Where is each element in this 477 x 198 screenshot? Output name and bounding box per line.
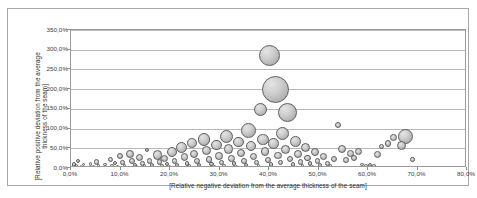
- x-axis-tick-mark: [219, 167, 220, 170]
- bubble-point: [301, 164, 304, 167]
- bubble-point: [351, 155, 357, 161]
- y-axis-tick-label: 300,0%: [46, 45, 68, 52]
- y-axis-tick-mark: [67, 128, 70, 129]
- x-axis-tick-mark: [120, 167, 121, 170]
- bubble-point: [338, 145, 346, 153]
- bubble-point: [410, 157, 414, 161]
- bubble-point: [135, 165, 138, 167]
- x-axis-tick-mark: [318, 167, 319, 170]
- bubble-point: [244, 163, 248, 167]
- bubble-point: [220, 130, 234, 144]
- y-axis-tick-label: 50,0%: [50, 144, 68, 151]
- y-axis-tick-mark: [67, 88, 70, 89]
- y-axis-tick-mark: [67, 108, 70, 109]
- bubble-point: [108, 157, 113, 162]
- bubble-point: [269, 162, 273, 166]
- bubble-point: [250, 153, 257, 160]
- bubble-point: [92, 165, 95, 167]
- x-axis-tick-label: 70,0%: [407, 170, 425, 177]
- x-axis-tick-mark: [70, 167, 71, 170]
- chart-outer-frame: [Relative positive deviation from the av…: [7, 8, 469, 186]
- y-axis-tick-label: 200,0%: [46, 85, 68, 92]
- x-axis-tick-labels: 0,0%10,0%20,0%30,0%40,0%50,0%60,0%70,0%8…: [70, 170, 466, 180]
- bubble-point: [117, 153, 123, 159]
- bubble-point: [278, 160, 283, 165]
- bubble-point: [385, 140, 391, 146]
- bubble-point: [145, 148, 149, 152]
- x-axis-title: [Relative negative deviation from the av…: [70, 182, 466, 189]
- bubble-point: [268, 138, 278, 148]
- bubble-point: [116, 165, 119, 167]
- bubble-point: [304, 155, 311, 162]
- bubble-point: [160, 164, 164, 167]
- bubble-point: [335, 122, 341, 128]
- x-axis-tick-label: 30,0%: [209, 170, 227, 177]
- bubble-point: [187, 138, 197, 148]
- bubble-point: [254, 103, 267, 116]
- bubble-point: [355, 148, 362, 155]
- bubble-point: [110, 164, 113, 167]
- bubble-point: [82, 163, 85, 166]
- y-axis-tick-mark: [67, 29, 70, 30]
- y-axis-tick-label: 250,0%: [46, 65, 68, 72]
- bubble-point: [237, 149, 245, 157]
- gridline-horizontal: [71, 69, 465, 70]
- bubble-point: [281, 145, 290, 154]
- bubble-point: [202, 146, 211, 155]
- bubble-point: [197, 163, 201, 167]
- bubble-point: [374, 151, 381, 158]
- bubble-point: [320, 153, 327, 160]
- bubble-point: [126, 150, 135, 159]
- x-axis-tick-label: 20,0%: [160, 170, 178, 177]
- x-axis-tick-mark: [417, 167, 418, 170]
- y-axis-tick-mark: [67, 68, 70, 69]
- y-axis-tick-label: 150,0%: [46, 104, 68, 111]
- bubble-point: [235, 165, 238, 167]
- bubble-point: [278, 103, 297, 122]
- bubble-point: [100, 166, 102, 167]
- bubble-point: [259, 45, 280, 66]
- bubble-point: [188, 164, 191, 167]
- bubble-point: [276, 127, 289, 140]
- bubble-point: [291, 162, 295, 166]
- bubble-point: [76, 159, 80, 163]
- y-axis-tick-label: 350,0%: [46, 26, 68, 33]
- bubble-point: [222, 164, 225, 167]
- bubble-point: [176, 142, 187, 153]
- y-axis-tick-label: 100,0%: [46, 124, 68, 131]
- bubble-point: [211, 140, 221, 150]
- bubble-point: [161, 155, 168, 162]
- bubble-point: [233, 137, 244, 148]
- plot-area: [70, 29, 466, 167]
- x-axis-tick-label: 60,0%: [358, 170, 376, 177]
- y-axis-tick-mark: [67, 49, 70, 50]
- bubble-point: [213, 165, 216, 167]
- bubble-point: [274, 152, 282, 160]
- x-axis-tick-label: 50,0%: [308, 170, 326, 177]
- bubble-point: [153, 166, 155, 167]
- bubble-point: [167, 147, 177, 157]
- bubble-point: [75, 164, 78, 167]
- bubble-point: [372, 164, 376, 167]
- bubble-point: [198, 133, 210, 145]
- x-axis-tick-label: 40,0%: [259, 170, 277, 177]
- bubble-point: [257, 164, 260, 167]
- x-axis-tick-mark: [466, 167, 467, 170]
- bubble-point: [390, 134, 397, 141]
- bubble-point: [200, 166, 203, 167]
- bubble-point: [311, 148, 319, 156]
- y-axis-tick-mark: [67, 147, 70, 148]
- bubble-point: [311, 165, 314, 167]
- bubble-point: [257, 134, 268, 145]
- bubble-point: [301, 143, 310, 152]
- bubble-point: [261, 147, 270, 156]
- x-axis-tick-mark: [367, 167, 368, 170]
- bubble-point: [86, 166, 89, 167]
- x-axis-tick-mark: [268, 167, 269, 170]
- bubble-chart-figure: [Relative positive deviation from the av…: [0, 0, 477, 198]
- bubble-point: [241, 123, 256, 138]
- x-axis-tick-label: 80,0%: [457, 170, 475, 177]
- bubble-point: [246, 141, 256, 151]
- bubble-point: [360, 163, 364, 167]
- bubble-point: [224, 144, 233, 153]
